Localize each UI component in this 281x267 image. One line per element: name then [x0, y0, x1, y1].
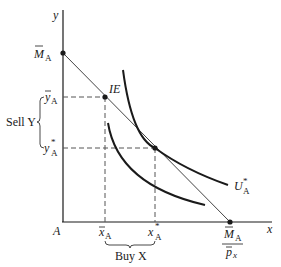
intercept-denominator-sub: x: [232, 250, 237, 260]
m-tilde-label-sub: A: [45, 53, 52, 63]
y-star-label: y: [43, 141, 50, 155]
x-axis-label: x: [266, 222, 273, 236]
sell-y-brace: [37, 97, 44, 148]
buy-x-label: Buy X: [115, 249, 147, 263]
m-tilde-point: [60, 50, 65, 55]
y-bar-label: y: [44, 90, 51, 104]
x-bar-label-sub: A: [105, 231, 112, 241]
budget-line: [63, 53, 230, 222]
intercept-numerator-sub: A: [235, 233, 242, 243]
endowment-point: [102, 94, 107, 99]
intercept-numerator: M: [223, 227, 235, 241]
indifference-curve-endowment: [108, 123, 205, 205]
buy-x-brace: [105, 241, 155, 248]
y-bar-label-sub: A: [51, 96, 58, 106]
y-axis-label: y: [52, 8, 59, 22]
x-intercept-point: [227, 219, 232, 224]
optimum-point: [152, 145, 157, 150]
x-star-label: x: [147, 225, 154, 239]
utility-label-sup: *: [243, 176, 248, 186]
sell-y-label: Sell Y: [6, 115, 36, 129]
indifference-curve-optimal: [123, 70, 228, 185]
m-tilde-label: M: [33, 47, 45, 61]
y-star-label-sup: *: [51, 137, 56, 147]
y-star-label-sub: A: [51, 148, 58, 158]
ie-label: IE: [108, 82, 121, 96]
trade-diagram: y x A M A y A y * A Sell Y x A x * A Buy…: [0, 0, 281, 267]
x-star-label-sup: *: [155, 221, 160, 231]
utility-label-sub: A: [243, 186, 250, 196]
origin-label: A: [52, 224, 61, 238]
x-star-label-sub: A: [155, 232, 162, 242]
